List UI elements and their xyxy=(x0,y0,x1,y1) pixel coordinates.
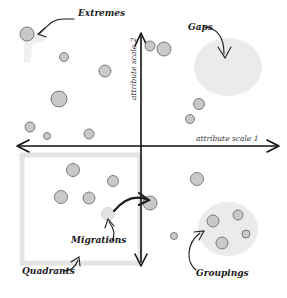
data-point xyxy=(145,41,155,51)
data-point xyxy=(157,42,171,56)
data-point xyxy=(51,91,67,107)
data-point xyxy=(67,164,80,177)
data-point xyxy=(60,53,69,62)
data-point-in-cluster xyxy=(233,210,243,220)
data-point xyxy=(44,133,51,140)
annotation-label-quadrants: Quadrants xyxy=(22,266,75,276)
scatterplot-diagram: attribute scale 1 attribute scale 2 xyxy=(0,0,287,298)
data-point xyxy=(20,27,34,41)
data-point-in-cluster xyxy=(216,237,228,249)
groupings-leader-line xyxy=(189,233,200,270)
annotation-label-migrations: Migrations xyxy=(70,235,126,245)
diagram-canvas: attribute scale 1 attribute scale 2 xyxy=(0,0,287,298)
gaps-blob xyxy=(194,38,262,96)
data-point xyxy=(99,65,111,77)
quadrant-highlight-box xyxy=(22,155,140,263)
y-axis-label: attribute scale 2 xyxy=(129,37,138,100)
data-point xyxy=(25,122,35,132)
annotation-label-groupings: Groupings xyxy=(196,268,249,278)
data-point xyxy=(191,173,204,186)
annotation-label-extremes: Extremes xyxy=(77,8,125,18)
groupings-blob xyxy=(198,202,258,256)
data-point xyxy=(108,176,119,187)
extremes-leader-line xyxy=(40,19,74,33)
data-point-in-cluster xyxy=(207,215,219,227)
x-axis-label: attribute scale 1 xyxy=(196,134,258,143)
data-point xyxy=(186,115,195,124)
data-point xyxy=(194,99,205,110)
data-point xyxy=(84,129,94,139)
data-point-in-cluster xyxy=(242,230,250,238)
data-point xyxy=(55,191,68,204)
data-point xyxy=(83,192,95,204)
data-point xyxy=(171,233,178,240)
annotation-label-gaps: Gaps xyxy=(188,22,213,32)
region-layer xyxy=(22,32,262,263)
